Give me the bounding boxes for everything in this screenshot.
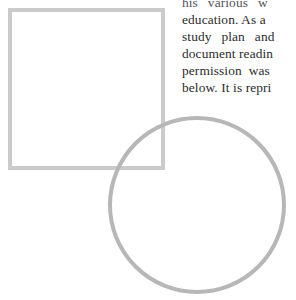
- text-line-5: permission was: [182, 62, 296, 79]
- scanned-page: his various w education. As a study plan…: [0, 0, 296, 300]
- text-line-1: his various w: [182, 0, 296, 11]
- circle-outline: [110, 118, 284, 292]
- text-line-3: study plan and: [182, 28, 296, 45]
- text-line-2: education. As a: [182, 11, 296, 28]
- text-line-4: document readin: [182, 45, 296, 62]
- text-line-6: below. It is repri: [182, 79, 296, 96]
- body-text-column: his various w education. As a study plan…: [182, 0, 296, 97]
- square-outline: [10, 10, 163, 168]
